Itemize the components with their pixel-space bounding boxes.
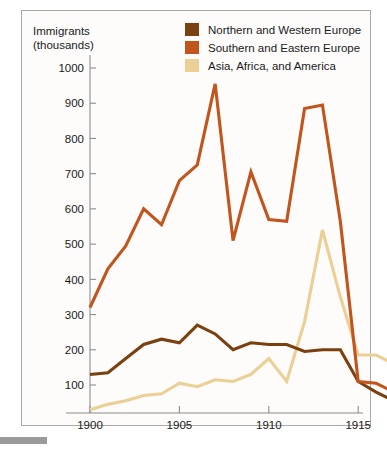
y-axis-tick-label: 300 [65, 309, 84, 321]
y-axis: 1002003004005006007008009001000 [58, 55, 96, 413]
x-axis-tick-label: 1910 [256, 419, 282, 431]
y-axis-tick-label: 400 [65, 274, 84, 286]
y-axis-tick-label: 900 [65, 97, 84, 109]
data-series-line [90, 230, 387, 410]
x-axis: 19001905191019151920 [66, 406, 387, 431]
data-series-line [90, 325, 387, 414]
data-series-line [90, 84, 387, 415]
y-axis-tick-label: 600 [65, 203, 84, 215]
x-axis-tick-label: 1905 [167, 419, 193, 431]
x-axis-tick-label: 1900 [77, 419, 103, 431]
y-axis-tick-label: 200 [65, 344, 84, 356]
bottom-left-gray-marker [0, 437, 47, 444]
y-axis-tick-label: 500 [65, 238, 84, 250]
y-axis-tick-label: 800 [65, 133, 84, 145]
y-axis-tick-label: 1000 [58, 62, 84, 74]
immigration-line-chart-figure: Immigrants (thousands) Northern and West… [0, 0, 387, 467]
data-series-group [90, 84, 387, 415]
chart-plot-area: 1002003004005006007008009001000 19001905… [0, 0, 387, 467]
x-axis-ticks: 19001905191019151920 [77, 406, 387, 431]
y-axis-tick-label: 700 [65, 168, 84, 180]
y-axis-tick-label: 100 [65, 379, 84, 391]
x-axis-tick-label: 1915 [345, 419, 371, 431]
